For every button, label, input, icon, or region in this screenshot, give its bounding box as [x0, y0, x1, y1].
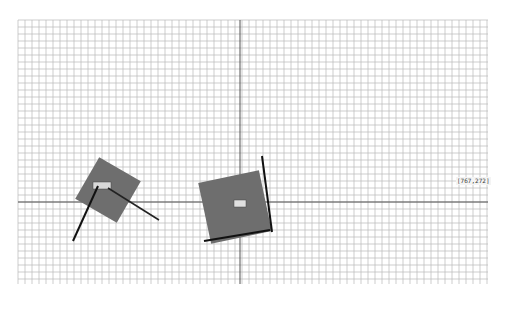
cursor-coordinate-label: [767,272] [456, 177, 491, 185]
large-square-badge [234, 200, 246, 207]
drawing-canvas[interactable] [0, 0, 506, 310]
